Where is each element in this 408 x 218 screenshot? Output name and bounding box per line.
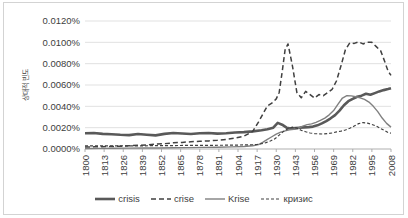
x-axis-tick-label: 1995 [366, 155, 377, 176]
chart-legend: crisiscriseKriseкризис [0, 193, 408, 204]
y-axis-tick-label: 0.0000% [42, 143, 80, 154]
x-axis-tick-label: 1826 [118, 155, 129, 176]
x-axis-tick-label: 1852 [156, 155, 167, 176]
y-axis-tick-label: 0.0080% [42, 58, 80, 69]
y-axis-title-label: 상대적 빈도 [21, 68, 30, 101]
legend-swatch-Krise [205, 195, 225, 203]
legend-label: crise [174, 193, 194, 204]
y-axis-tick-label: 0.0100% [42, 37, 80, 48]
legend-item-crisis[interactable]: crisis [95, 193, 140, 204]
legend-item-crise[interactable]: crise [151, 193, 194, 204]
line-chart-plot: 0.0000%0.0020%0.0040%0.0060%0.0080%0.010… [4, 3, 403, 214]
legend-label: Krise [228, 193, 250, 204]
legend-swatch-crisis [95, 195, 115, 203]
x-axis-tick-label: 1813 [99, 155, 110, 176]
x-axis-tick-label: 1878 [194, 155, 205, 176]
x-axis-tick-label: 1956 [309, 155, 320, 176]
x-axis-tick-label: 1943 [290, 155, 301, 176]
x-axis-tick-labels: 1800181318261839185218651878189119041917… [80, 149, 397, 176]
y-axis-tick-label: 0.0040% [42, 101, 80, 112]
y-axis-tick-labels: 0.0000%0.0020%0.0040%0.0060%0.0080%0.010… [42, 15, 80, 154]
legend-label: кризис [284, 193, 313, 204]
legend-label: crisis [118, 193, 140, 204]
x-axis-tick-label: 1839 [137, 155, 148, 176]
x-axis-tick-label: 1917 [252, 155, 263, 176]
y-axis-tick-label: 0.0020% [42, 122, 80, 133]
series-line-crisis [85, 88, 391, 135]
legend-swatch-crise [151, 195, 171, 203]
y-axis-tick-label: 0.0120% [42, 15, 80, 26]
chart-container: 0.0000%0.0020%0.0040%0.0060%0.0080%0.010… [3, 2, 404, 215]
x-axis-tick-label: 1865 [175, 155, 186, 176]
y-axis-title: 상대적 빈도 [21, 68, 30, 101]
legend-item-кризис[interactable]: кризис [261, 193, 313, 204]
x-axis-tick-label: 2008 [386, 155, 397, 176]
x-axis-tick-label: 1904 [233, 155, 244, 176]
legend-item-Krise[interactable]: Krise [205, 193, 250, 204]
x-axis-tick-label: 1982 [347, 155, 358, 176]
x-axis-tick-label: 1800 [80, 155, 91, 176]
x-axis-tick-label: 1891 [213, 155, 224, 176]
x-axis-tick-label: 1930 [271, 155, 282, 176]
legend-swatch-кризис [261, 195, 281, 203]
data-series-group [85, 42, 391, 149]
y-axis-tick-label: 0.0060% [42, 79, 80, 90]
x-axis-tick-label: 1969 [328, 155, 339, 176]
